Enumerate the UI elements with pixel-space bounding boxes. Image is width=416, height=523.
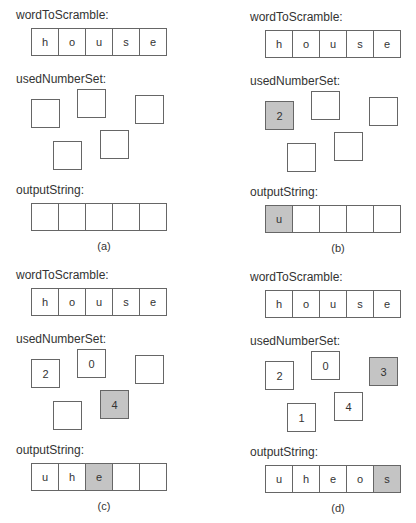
panel-c: wordToScramble:houseusedNumberSet:204out… [0, 260, 208, 521]
output-cell [319, 205, 347, 233]
output-cell [85, 203, 113, 231]
output-string-array: u [265, 205, 401, 233]
word-cell: h [265, 290, 293, 318]
output-cell [139, 463, 167, 491]
used-number-box: 1 [287, 403, 316, 432]
used-number-box: 0 [311, 351, 340, 380]
word-cell: o [292, 290, 320, 318]
output-string-label: outputString: [250, 445, 318, 459]
used-number-box [53, 401, 82, 430]
output-cell: e [85, 463, 113, 491]
word-cell: e [373, 30, 401, 58]
used-number-box [31, 99, 60, 128]
output-string-label: outputString: [16, 443, 84, 457]
output-cell: h [58, 463, 86, 491]
output-cell: o [346, 465, 374, 493]
word-cell: e [373, 290, 401, 318]
used-number-box: 0 [77, 349, 106, 378]
word-to-scramble-array: house [31, 288, 167, 316]
word-cell: u [319, 30, 347, 58]
used-number-box: 4 [100, 390, 129, 419]
output-string-array: uhe [31, 463, 167, 491]
used-number-box [135, 95, 164, 124]
output-cell: h [292, 465, 320, 493]
output-cell: u [265, 465, 293, 493]
word-to-scramble-array: house [265, 30, 401, 58]
word-cell: u [85, 28, 113, 56]
word-cell: s [112, 28, 140, 56]
output-cell: e [319, 465, 347, 493]
word-to-scramble-label: wordToScramble: [250, 270, 343, 284]
output-cell [112, 463, 140, 491]
panel-caption: (c) [0, 500, 208, 512]
used-number-box [135, 355, 164, 384]
output-cell [31, 203, 59, 231]
output-cell: u [265, 205, 293, 233]
panel-caption: (d) [234, 502, 416, 514]
used-number-box [334, 132, 363, 161]
word-to-scramble-array: house [31, 28, 167, 56]
output-cell: u [31, 463, 59, 491]
used-number-set-label: usedNumberSet: [16, 332, 106, 346]
panel-b: wordToScramble:houseusedNumberSet:2outpu… [234, 2, 416, 263]
word-cell: u [85, 288, 113, 316]
output-string-label: outputString: [16, 183, 84, 197]
used-number-box [369, 97, 398, 126]
used-number-box [100, 130, 129, 159]
used-number-box: 2 [265, 361, 294, 390]
used-number-box: 4 [334, 392, 363, 421]
used-number-box: 2 [265, 101, 294, 130]
word-cell: s [346, 30, 374, 58]
output-cell [346, 205, 374, 233]
output-string-label: outputString: [250, 185, 318, 199]
word-cell: h [31, 288, 59, 316]
output-cell [373, 205, 401, 233]
used-number-set-label: usedNumberSet: [16, 72, 106, 86]
used-number-box [311, 91, 340, 120]
panel-caption: (b) [234, 242, 416, 254]
output-cell [58, 203, 86, 231]
used-number-box: 2 [31, 359, 60, 388]
output-string-array: uheos [265, 465, 401, 493]
word-to-scramble-array: house [265, 290, 401, 318]
word-cell: u [319, 290, 347, 318]
used-number-set-label: usedNumberSet: [250, 74, 340, 88]
panel-a: wordToScramble:houseusedNumberSet:output… [0, 0, 208, 261]
used-number-set-label: usedNumberSet: [250, 334, 340, 348]
word-to-scramble-label: wordToScramble: [16, 8, 109, 22]
output-cell: s [373, 465, 401, 493]
output-string-array [31, 203, 167, 231]
output-cell [139, 203, 167, 231]
word-cell: e [139, 28, 167, 56]
panel-caption: (a) [0, 240, 208, 252]
word-cell: o [292, 30, 320, 58]
word-to-scramble-label: wordToScramble: [16, 268, 109, 282]
word-cell: h [265, 30, 293, 58]
panel-d: wordToScramble:houseusedNumberSet:20314o… [234, 262, 416, 523]
used-number-box [287, 143, 316, 172]
word-cell: e [139, 288, 167, 316]
word-cell: h [31, 28, 59, 56]
used-number-box [53, 141, 82, 170]
word-cell: s [346, 290, 374, 318]
word-cell: o [58, 288, 86, 316]
output-cell [112, 203, 140, 231]
word-cell: o [58, 28, 86, 56]
output-cell [292, 205, 320, 233]
used-number-box: 3 [369, 357, 398, 386]
word-to-scramble-label: wordToScramble: [250, 10, 343, 24]
used-number-box [77, 89, 106, 118]
word-cell: s [112, 288, 140, 316]
